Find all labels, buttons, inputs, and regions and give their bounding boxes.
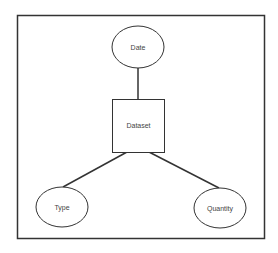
edge-dataset-quantity xyxy=(149,152,219,188)
node-type: Type xyxy=(36,187,88,227)
dataset-label: Dataset xyxy=(126,122,150,129)
node-date: Date xyxy=(112,26,164,68)
edge-dataset-type xyxy=(63,152,127,187)
node-quantity: Quantity xyxy=(194,188,246,228)
er-diagram: Date Dataset Type Quantity xyxy=(0,0,278,253)
node-dataset: Dataset xyxy=(113,100,165,153)
date-label: Date xyxy=(131,44,146,51)
type-label: Type xyxy=(54,204,69,212)
quantity-label: Quantity xyxy=(207,205,234,213)
